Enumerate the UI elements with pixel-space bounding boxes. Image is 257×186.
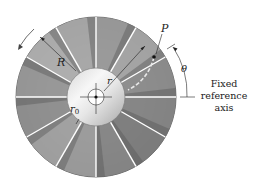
label-fixed-reference-axis-line1: Fixed	[211, 78, 238, 89]
label-R: R	[56, 56, 65, 69]
label-fixed-reference-axis-line3: axis	[215, 102, 234, 113]
label-fixed-reference-axis-line2: reference	[201, 90, 248, 101]
angle-theta-arrowhead	[173, 47, 178, 51]
rotation-direction-arc	[20, 29, 34, 46]
label-theta: θ	[181, 63, 187, 74]
hub	[67, 68, 125, 126]
center-point	[94, 95, 97, 98]
label-P: P	[160, 22, 169, 35]
label-r0-subscript: 0	[75, 108, 79, 116]
rotating-disk-diagram: R r r0 P θ Fixed reference axis	[0, 0, 257, 186]
point-P-marker	[152, 55, 156, 59]
